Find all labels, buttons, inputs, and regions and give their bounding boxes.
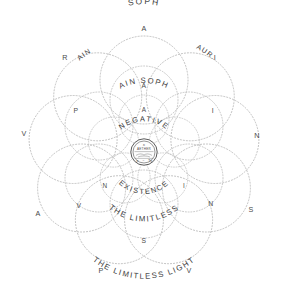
outer-arc-soph: SOPH [127,0,161,8]
outer-letter-a-top: A [141,24,146,33]
outer-letter-s: S [248,205,253,214]
inner-letter-a-top: A [142,106,147,113]
middle-letter-p: P [74,107,79,114]
aether-seal: א AETHER א = Tא [130,138,157,165]
middle-letter-i: I [212,107,214,114]
emblem-bottom-left-glyph: א [137,159,139,163]
inner-letter-n: N [102,182,107,189]
outer-letter-r: R [62,53,68,62]
inner-letter-i: I [183,182,185,189]
diagram-canvas: A I N S V P A V R SOPH AIN AUR. A I [0,0,288,303]
emblem-label: AETHER [137,147,152,151]
outer-letter-a-lower-left: A [35,209,40,218]
outer-letter-v-left: V [21,129,26,138]
emblem-bottom-right-glyph: Tא [148,159,152,163]
middle-letter-s: S [142,237,147,244]
middle-letter-n: N [208,200,213,207]
outer-letter-n: N [254,131,260,140]
negative-existence-diagram: A I N S V P A V R SOPH AIN AUR. A I [0,0,288,303]
middle-letter-v: V [77,202,82,209]
emblem-bottom-equals-glyph: = [142,159,144,163]
